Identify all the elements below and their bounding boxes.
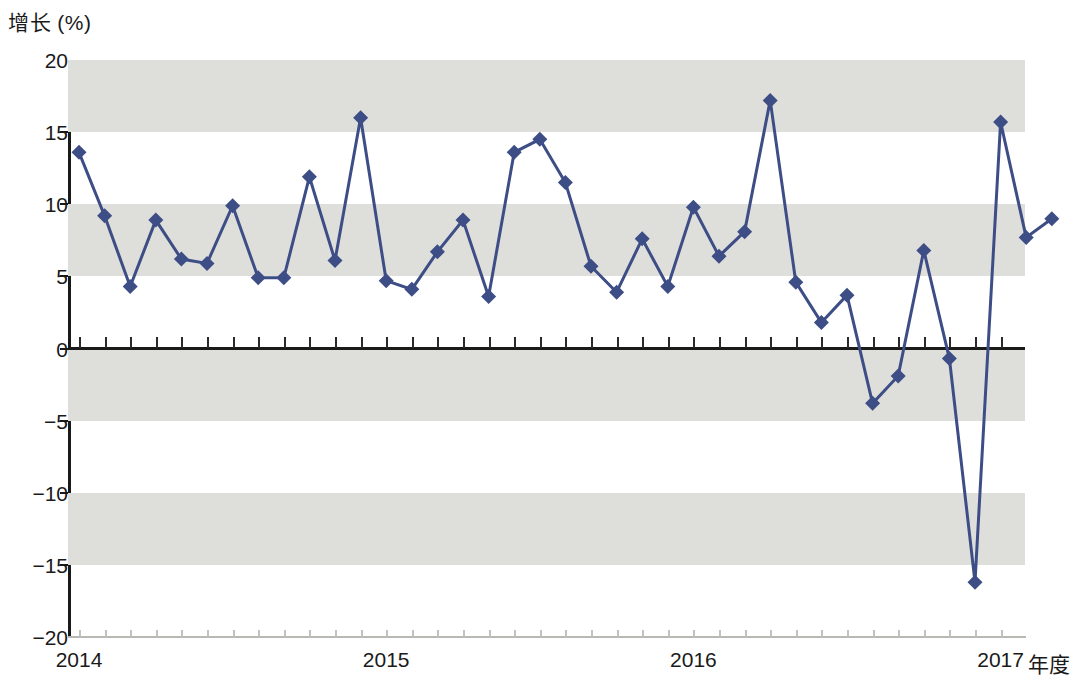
data-point-marker bbox=[148, 213, 163, 228]
x-axis-title: 年度 bbox=[1028, 648, 1070, 678]
x-axis-tick-label: 2017 bbox=[977, 648, 1024, 672]
data-point-marker bbox=[993, 115, 1008, 130]
data-point-marker bbox=[328, 253, 343, 268]
data-point-marker bbox=[302, 169, 317, 184]
data-point-marker bbox=[968, 575, 983, 590]
data-point-marker bbox=[379, 273, 394, 288]
y-axis-tick-group: 20151050−5−10−15−20 bbox=[0, 0, 68, 684]
data-point-marker bbox=[72, 145, 87, 160]
data-point-marker bbox=[251, 270, 266, 285]
data-point-marker bbox=[276, 270, 291, 285]
plot-area bbox=[68, 60, 1025, 637]
data-point-marker bbox=[763, 93, 778, 108]
data-point-marker bbox=[686, 200, 701, 215]
data-point-marker bbox=[635, 231, 650, 246]
x-axis-tick-label: 2016 bbox=[670, 648, 717, 672]
y-axis-tick-label: 20 bbox=[10, 50, 68, 71]
data-point-marker bbox=[174, 252, 189, 267]
y-axis-tick-label: −20 bbox=[10, 627, 68, 648]
data-point-marker bbox=[481, 289, 496, 304]
x-axis-tick-label: 2015 bbox=[363, 648, 410, 672]
data-point-marker bbox=[942, 351, 957, 366]
series-line bbox=[79, 100, 1052, 582]
data-point-marker bbox=[558, 175, 573, 190]
growth-rate-line-chart: 增长 (%) 20151050−5−10−15−20 2014201520162… bbox=[0, 0, 1083, 684]
data-point-marker bbox=[225, 198, 240, 213]
data-point-marker bbox=[532, 132, 547, 147]
data-point-marker bbox=[916, 243, 931, 258]
data-point-marker bbox=[353, 110, 368, 125]
data-point-marker bbox=[660, 279, 675, 294]
data-point-marker bbox=[200, 256, 215, 271]
data-point-marker bbox=[123, 279, 138, 294]
data-point-marker bbox=[97, 208, 112, 223]
x-axis-tick-label: 2014 bbox=[56, 648, 103, 672]
data-series-growth bbox=[68, 60, 1025, 637]
data-point-marker bbox=[507, 145, 522, 160]
series-markers bbox=[72, 93, 1060, 590]
data-point-marker bbox=[788, 275, 803, 290]
